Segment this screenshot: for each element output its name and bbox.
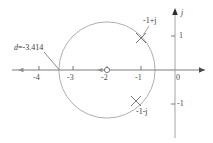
tick-label-real--1: -1 bbox=[135, 74, 142, 82]
tick-label-imag--1: -1 bbox=[177, 100, 184, 108]
breakaway-annotation: d=-3.414 bbox=[14, 44, 43, 52]
zero-marker bbox=[104, 67, 109, 72]
pole-marker-lower bbox=[131, 96, 141, 106]
breakaway-leader-line bbox=[44, 52, 59, 70]
zero-approach-arrow-icon bbox=[97, 68, 103, 72]
tick-label-imag-1: 1 bbox=[179, 32, 183, 40]
pole-upper-leader-line bbox=[144, 26, 150, 35]
pole-lower-label: -1-j bbox=[136, 108, 148, 116]
imaginary-axis-label: j bbox=[181, 9, 183, 17]
tick-label-real--4: -4 bbox=[33, 74, 40, 82]
imaginary-axis-arrow-icon bbox=[172, 8, 178, 15]
real-axis-arrow-icon bbox=[199, 67, 205, 73]
tick-label-real--3: -3 bbox=[67, 74, 74, 82]
pole-marker-upper bbox=[136, 33, 146, 43]
tick-label-real--2: -2 bbox=[101, 74, 108, 82]
real-axis-ticks bbox=[39, 66, 141, 70]
pole-upper-label: -1+j bbox=[143, 17, 156, 25]
plot-canvas bbox=[0, 0, 213, 143]
real-axis-locus-arrow-icon bbox=[18, 68, 24, 72]
tick-label-real-0: 0 bbox=[176, 74, 180, 82]
breakaway-value: -3.414 bbox=[23, 43, 44, 52]
root-locus-figure: -4 -3 -2 -1 0 1 -1 j d=-3.414 -1+j -1-j bbox=[0, 0, 213, 143]
